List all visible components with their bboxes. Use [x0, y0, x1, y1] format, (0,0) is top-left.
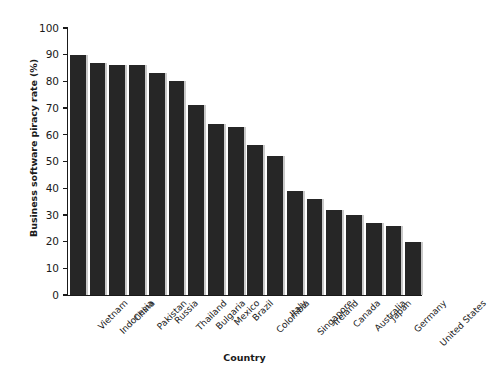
x-axis-title: Country [67, 352, 422, 363]
bar-slot [307, 28, 323, 295]
bar [109, 65, 125, 295]
bar-slot [247, 28, 263, 295]
y-axis-tick-label: 80 [46, 76, 63, 87]
bar [346, 215, 362, 295]
bar-slot [70, 28, 86, 295]
bar-slot [109, 28, 125, 295]
y-axis-tick-label: 100 [39, 23, 63, 34]
bar [267, 156, 283, 295]
bar-slot [169, 28, 185, 295]
bar-slot [188, 28, 204, 295]
bar [247, 145, 263, 295]
bar [208, 124, 224, 295]
bar [70, 55, 86, 295]
y-axis-tick-label: 70 [46, 103, 63, 114]
x-axis-tick-label: China [132, 298, 157, 323]
bar-slot [267, 28, 283, 295]
bar [90, 63, 106, 295]
bar [129, 65, 145, 295]
bar [228, 127, 244, 295]
bar-slot [346, 28, 362, 295]
bar-slot [228, 28, 244, 295]
bar-slot [90, 28, 106, 295]
bars-container [68, 29, 422, 295]
bar [366, 223, 382, 295]
y-axis-tick-label: 20 [46, 236, 63, 247]
bar-slot [366, 28, 382, 295]
y-axis-tick-label: 90 [46, 49, 63, 60]
bar [307, 199, 323, 295]
bar-slot [129, 28, 145, 295]
y-axis-title: Business software piracy rate (%) [22, 0, 44, 296]
bar-slot [405, 28, 421, 295]
bar [188, 105, 204, 295]
x-axis-tick-label: Germany [413, 298, 449, 334]
bar [405, 242, 421, 295]
bar-slot [149, 28, 165, 295]
bar-slot [386, 28, 402, 295]
bar [287, 191, 303, 295]
y-axis-tick-label: 60 [46, 130, 63, 141]
bar [169, 81, 185, 295]
y-axis-tick-label: 0 [52, 290, 63, 301]
plot-area: 0102030405060708090100 [67, 29, 422, 296]
bar-slot [326, 28, 342, 295]
bar-slot [287, 28, 303, 295]
x-axis-tick-label: Japan [388, 298, 413, 323]
x-axis-tick-labels: VietnamIndonesiaChinaPakistanRussiaThail… [67, 298, 422, 358]
y-axis-tick-label: 30 [46, 210, 63, 221]
y-axis-tick-label: 10 [46, 263, 63, 274]
y-axis-tick-label: 50 [46, 156, 63, 167]
y-axis-tick-label: 40 [46, 183, 63, 194]
bar [386, 226, 402, 295]
bar [149, 73, 165, 295]
bar-slot [208, 28, 224, 295]
bar [326, 210, 342, 295]
